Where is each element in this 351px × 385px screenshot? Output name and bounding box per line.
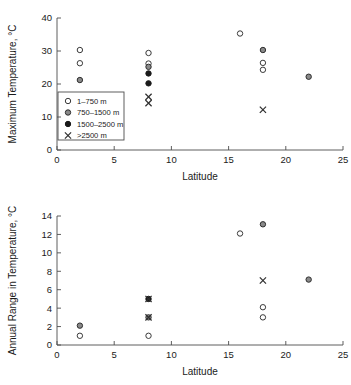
data-point-open-circle	[260, 305, 265, 310]
y-axis-ticks: 02468101214	[41, 210, 61, 350]
data-point-open-circle	[237, 31, 242, 36]
y-tick-label: 10	[41, 111, 52, 122]
data-point-cross	[145, 100, 151, 106]
series-open-circle	[77, 231, 265, 339]
data-point-open-circle	[260, 315, 265, 320]
legend-label: 1–750 m	[77, 97, 107, 106]
y-tick-label: 12	[41, 229, 52, 240]
y-tick-label: 20	[41, 78, 52, 89]
x-tick-label: 5	[112, 154, 117, 165]
data-points	[77, 222, 311, 339]
legend: 1–750 m750–1500 m1500–2500 m>2500 m	[58, 92, 124, 140]
legend-label: 1500–2500 m	[77, 120, 123, 129]
data-point-open-circle	[260, 67, 265, 72]
series-filled-circle	[146, 71, 151, 86]
x-tick-label: 0	[54, 349, 59, 360]
legend-marker-filled-circle	[65, 121, 70, 126]
data-point-open-circle	[77, 61, 82, 66]
series-cross	[145, 94, 266, 113]
legend-label: >2500 m	[77, 131, 107, 140]
series-half-filled-circle	[77, 222, 311, 329]
data-point-cross	[145, 94, 151, 100]
x-tick-label: 25	[338, 349, 349, 360]
data-point-open-circle	[77, 47, 82, 52]
data-point-half-filled-circle	[77, 77, 82, 82]
data-point-filled-circle	[146, 81, 151, 86]
data-point-cross	[260, 107, 266, 113]
y-tick-label: 0	[47, 144, 52, 155]
data-point-open-circle	[237, 231, 242, 236]
y-tick-label: 2	[47, 321, 52, 332]
x-axis-ticks: 0510152025	[54, 341, 348, 360]
y-tick-label: 8	[47, 266, 52, 277]
series-half-filled-circle	[77, 47, 311, 82]
annual-range-plot: 051015202502468101214LatitudeAnnual Rang…	[0, 190, 351, 385]
x-tick-label: 15	[223, 154, 234, 165]
x-tick-label: 10	[166, 349, 177, 360]
y-axis-title: Maximum Temperature, °C	[7, 25, 18, 144]
data-point-half-filled-circle	[260, 47, 265, 52]
x-tick-label: 5	[112, 349, 117, 360]
y-axis-title: Annual Range in Temperature, °C	[7, 206, 18, 355]
data-point-open-circle	[77, 333, 82, 338]
data-points	[77, 31, 311, 113]
y-tick-label: 40	[41, 12, 52, 23]
x-tick-label: 25	[338, 154, 349, 165]
data-point-cross	[260, 277, 266, 283]
series-open-circle	[77, 31, 265, 73]
y-tick-label: 10	[41, 247, 52, 258]
maximum-temperature-plot: 0510152025010203040LatitudeMaximum Tempe…	[0, 0, 351, 190]
x-tick-label: 10	[166, 154, 177, 165]
axes	[57, 18, 343, 150]
data-point-half-filled-circle	[146, 64, 151, 69]
axes	[57, 216, 343, 345]
y-tick-label: 30	[41, 45, 52, 56]
y-tick-label: 6	[47, 284, 52, 295]
scatter-figure: 0510152025010203040LatitudeMaximum Tempe…	[0, 0, 351, 385]
y-tick-label: 4	[47, 303, 52, 314]
data-point-half-filled-circle	[77, 323, 82, 328]
data-point-open-circle	[146, 50, 151, 55]
x-tick-label: 15	[223, 349, 234, 360]
legend-label: 750–1500 m	[77, 108, 119, 117]
data-point-open-circle	[260, 60, 265, 65]
legend-marker-half-filled-circle	[65, 110, 70, 115]
series-cross	[145, 277, 266, 320]
data-point-half-filled-circle	[260, 222, 265, 227]
legend-marker-cross	[65, 132, 71, 138]
x-tick-label: 0	[54, 154, 59, 165]
x-axis-ticks: 0510152025	[54, 146, 348, 165]
x-tick-label: 20	[281, 154, 292, 165]
x-axis-title: Latitude	[182, 171, 218, 182]
y-tick-label: 14	[41, 210, 52, 221]
legend-marker-open-circle	[65, 98, 70, 103]
chart-panel-annual-range: 051015202502468101214LatitudeAnnual Rang…	[0, 190, 351, 385]
chart-panel-maximum-temperature: 0510152025010203040LatitudeMaximum Tempe…	[0, 0, 351, 190]
data-point-filled-circle	[146, 71, 151, 76]
y-tick-label: 0	[47, 339, 52, 350]
x-axis-title: Latitude	[182, 366, 218, 377]
data-point-open-circle	[146, 333, 151, 338]
data-point-half-filled-circle	[306, 74, 311, 79]
data-point-half-filled-circle	[306, 277, 311, 282]
x-tick-label: 20	[281, 349, 292, 360]
